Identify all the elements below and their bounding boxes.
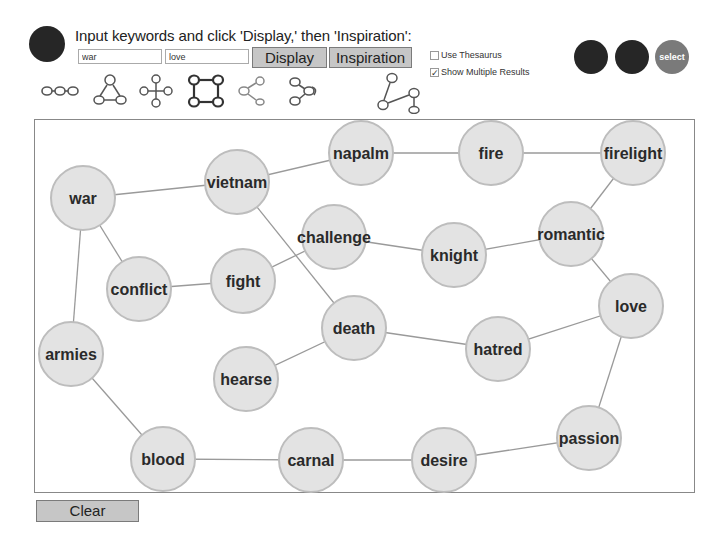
word-node-hearse[interactable]: hearse [214,347,278,411]
word-node-hatred[interactable]: hatred [466,317,530,381]
use-thesaurus-option[interactable]: Use Thesaurus [430,50,502,60]
keyword-input-2[interactable] [165,49,249,64]
clear-button[interactable]: Clear [36,500,139,522]
word-node-romantic[interactable]: romantic [537,202,605,266]
node-label: fire [479,145,504,162]
node-label: fight [226,273,261,290]
word-node-carnal[interactable]: carnal [279,428,343,492]
word-node-armies[interactable]: armies [39,322,103,386]
word-node-blood[interactable]: blood [131,427,195,491]
node-label: passion [559,430,619,447]
color-dot-2-icon[interactable] [615,40,649,74]
word-graph-svg: warvietnamnapalmfirefirelightchallengekn… [35,120,696,494]
nodes-layer: warvietnamnapalmfirefirelightchallengekn… [39,121,665,492]
word-node-desire[interactable]: desire [412,428,476,492]
node-label: knight [430,247,479,264]
node-label: vietnam [207,174,267,191]
node-label: death [333,320,376,337]
word-graph-canvas[interactable]: warvietnamnapalmfirefirelightchallengekn… [34,119,695,493]
node-label: armies [45,346,97,363]
node-label: challenge [297,229,371,246]
logo-circle-icon[interactable] [29,26,65,62]
chain-layout-icon[interactable] [40,83,80,99]
word-node-firelight[interactable]: firelight [601,121,665,185]
node-label: hearse [220,371,272,388]
display-button[interactable]: Display [252,47,327,68]
word-node-passion[interactable]: passion [557,406,621,470]
node-label: conflict [111,281,169,298]
use-thesaurus-label: Use Thesaurus [441,50,502,60]
triangle-layout-icon[interactable] [92,73,128,107]
zigzag-layout-icon[interactable] [376,72,426,114]
inspiration-button[interactable]: Inspiration [329,47,412,68]
node-label: desire [420,452,467,469]
node-label: romantic [537,226,605,243]
use-thesaurus-checkbox[interactable] [430,51,439,60]
node-label: firelight [604,145,663,162]
square-layout-icon[interactable] [187,73,225,109]
page: Input keywords and click 'Display,' then… [0,0,720,550]
word-node-challenge[interactable]: challenge [297,205,371,269]
word-node-love[interactable]: love [599,274,663,338]
layout-toolbar [0,70,720,115]
word-node-napalm[interactable]: napalm [329,121,393,185]
word-node-fight[interactable]: fight [211,249,275,313]
word-node-death[interactable]: death [322,296,386,360]
color-dot-1-icon[interactable] [574,40,608,74]
curl-layout-icon[interactable] [288,75,320,107]
word-node-war[interactable]: war [51,166,115,230]
node-label: war [68,190,97,207]
instructions-text: Input keywords and click 'Display,' then… [75,27,412,44]
select-button[interactable]: select [655,40,689,74]
node-label: love [615,298,647,315]
branch-layout-icon[interactable] [238,75,268,107]
node-label: blood [141,451,185,468]
word-node-vietnam[interactable]: vietnam [205,150,269,214]
word-node-fire[interactable]: fire [459,121,523,185]
word-node-conflict[interactable]: conflict [107,257,171,321]
node-label: napalm [333,145,389,162]
node-label: hatred [474,341,523,358]
node-label: carnal [287,452,334,469]
word-node-knight[interactable]: knight [422,223,486,287]
keyword-input-1[interactable] [78,49,162,64]
cross-layout-icon[interactable] [138,73,174,109]
